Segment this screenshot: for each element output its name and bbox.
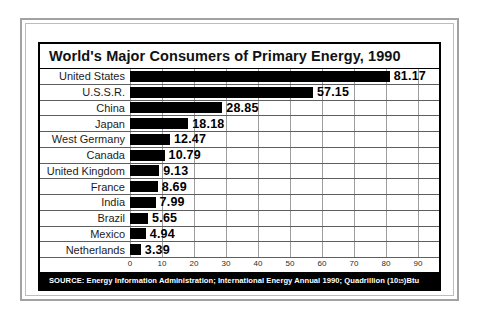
category-label: India <box>40 196 130 208</box>
source-bar: SOURCE: Energy Information Administratio… <box>40 272 439 289</box>
category-label: United Kingdom <box>40 165 130 177</box>
value-label: 81.17 <box>394 69 426 83</box>
x-tick-label: 50 <box>286 259 295 268</box>
bar <box>130 71 390 82</box>
bar-row: United States 81.17 <box>40 69 439 85</box>
x-tick-label: 70 <box>350 259 359 268</box>
category-label: Canada <box>40 149 130 161</box>
bar-row: Netherlands 3.39 <box>40 242 439 258</box>
x-axis: 0102030405060708090 <box>40 258 439 272</box>
value-label: 4.94 <box>150 227 175 241</box>
bar <box>130 118 188 129</box>
source-text: SOURCE: Energy Information Administratio… <box>49 276 398 285</box>
x-tick-label: 10 <box>158 259 167 268</box>
bar <box>130 150 165 161</box>
category-label: France <box>40 181 130 193</box>
x-tick-label: 40 <box>254 259 263 268</box>
bar <box>130 197 156 208</box>
bar-chart: World's Major Consumers of Primary Energ… <box>38 42 441 291</box>
bar-row: India 7.99 <box>40 195 439 211</box>
x-tick-label: 0 <box>128 259 132 268</box>
category-label: Netherlands <box>40 244 130 256</box>
x-tick-label: 90 <box>414 259 423 268</box>
x-tick-label: 30 <box>222 259 231 268</box>
value-label: 18.18 <box>192 117 224 131</box>
bar-rows: United States 81.17 U.S.S.R. 57.15 China… <box>40 69 439 258</box>
bar-row: Canada 10.79 <box>40 148 439 164</box>
value-label: 10.79 <box>169 148 201 162</box>
bar <box>130 134 170 145</box>
value-label: 9.13 <box>163 164 188 178</box>
value-label: 7.99 <box>160 195 185 209</box>
bar <box>130 181 158 192</box>
value-label: 12.47 <box>174 132 206 146</box>
source-text-suffix: )Btu <box>404 276 419 285</box>
bar-row: U.S.S.R. 57.15 <box>40 85 439 101</box>
category-label: Japan <box>40 118 130 130</box>
category-label: U.S.S.R. <box>40 86 130 98</box>
chart-title: World's Major Consumers of Primary Energ… <box>40 44 439 69</box>
bar-row: France 8.69 <box>40 179 439 195</box>
value-label: 57.15 <box>317 85 349 99</box>
bar <box>130 213 148 224</box>
bar-row: Brazil 5.65 <box>40 211 439 227</box>
category-label: United States <box>40 70 130 82</box>
bar <box>130 228 146 239</box>
x-tick-label: 20 <box>190 259 199 268</box>
category-label: West Germany <box>40 133 130 145</box>
bar-row: Mexico 4.94 <box>40 227 439 243</box>
category-label: China <box>40 102 130 114</box>
value-label: 3.39 <box>145 243 170 257</box>
x-tick-label: 60 <box>318 259 327 268</box>
bar-row: China 28.85 <box>40 101 439 117</box>
bar <box>130 244 141 255</box>
category-label: Mexico <box>40 228 130 240</box>
bar <box>130 165 159 176</box>
bar-row: Japan 18.18 <box>40 116 439 132</box>
value-label: 5.65 <box>152 211 177 225</box>
value-label: 28.85 <box>226 101 258 115</box>
bar <box>130 87 313 98</box>
category-label: Brazil <box>40 212 130 224</box>
x-tick-label: 80 <box>382 259 391 268</box>
bar-row: United Kingdom 9.13 <box>40 164 439 180</box>
value-label: 8.69 <box>162 180 187 194</box>
bar-row: West Germany 12.47 <box>40 132 439 148</box>
bar <box>130 102 222 113</box>
